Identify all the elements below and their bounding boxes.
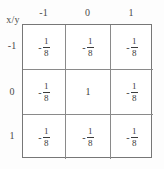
fraction: 18: [87, 37, 94, 58]
fraction-numerator: 1: [43, 127, 50, 136]
table-cell: -18: [66, 25, 111, 70]
cell-value: -18: [38, 127, 49, 148]
fraction: 18: [43, 127, 50, 148]
column-header-0: -1: [22, 8, 65, 18]
table-cell: -18: [23, 25, 66, 70]
fraction: 18: [43, 37, 50, 58]
fraction-numerator: 1: [87, 37, 94, 46]
axis-corner-label: x/y: [2, 15, 24, 25]
fraction: 18: [131, 82, 138, 103]
minus-sign-icon: -: [126, 133, 129, 143]
column-header-1: 0: [65, 8, 110, 18]
fraction-denominator: 8: [131, 139, 138, 148]
fraction-denominator: 8: [43, 139, 50, 148]
table-cell: -18: [111, 25, 153, 70]
fraction-numerator: 1: [43, 82, 50, 91]
minus-sign-icon: -: [38, 88, 41, 98]
table-cell: -18: [66, 115, 111, 159]
column-header-2: 1: [110, 8, 152, 18]
fraction-denominator: 8: [43, 49, 50, 58]
minus-sign-icon: -: [126, 88, 129, 98]
cell-value: -18: [126, 37, 137, 58]
fraction: 18: [131, 37, 138, 58]
minus-sign-icon: -: [38, 133, 41, 143]
fraction-denominator: 8: [87, 139, 94, 148]
fraction: 18: [87, 127, 94, 148]
cell-value: -18: [38, 82, 49, 103]
table-cell: 1: [66, 70, 111, 115]
minus-sign-icon: -: [82, 43, 85, 53]
minus-sign-icon: -: [126, 43, 129, 53]
fraction-numerator: 1: [131, 82, 138, 91]
table-cell: -18: [111, 70, 153, 115]
fraction-denominator: 8: [87, 49, 94, 58]
fraction-numerator: 1: [43, 37, 50, 46]
fraction-numerator: 1: [131, 127, 138, 136]
table-cell: -18: [23, 70, 66, 115]
fraction-denominator: 8: [43, 94, 50, 103]
cell-value: 1: [86, 87, 91, 97]
fraction-numerator: 1: [87, 127, 94, 136]
row-header-0: -1: [2, 41, 22, 51]
scanned-table-figure: x/y -1 0 1 -1 0 1 -18 -18 -18 -18 1 -18 …: [0, 0, 164, 169]
minus-sign-icon: -: [82, 133, 85, 143]
fraction: 18: [131, 127, 138, 148]
cell-value: -18: [126, 82, 137, 103]
fraction-denominator: 8: [131, 49, 138, 58]
minus-sign-icon: -: [38, 43, 41, 53]
scalar-value: 1: [86, 87, 91, 97]
fraction-numerator: 1: [131, 37, 138, 46]
cell-value: -18: [38, 37, 49, 58]
table-cell: -18: [23, 115, 66, 159]
fraction: 18: [43, 82, 50, 103]
cell-value: -18: [82, 37, 93, 58]
table-grid: -18 -18 -18 -18 1 -18 -18 -18 -18: [22, 24, 152, 158]
table-cell: -18: [111, 115, 153, 159]
row-header-1: 0: [2, 87, 22, 97]
cell-value: -18: [126, 127, 137, 148]
row-header-2: 1: [2, 131, 22, 141]
cell-value: -18: [82, 127, 93, 148]
fraction-denominator: 8: [131, 94, 138, 103]
